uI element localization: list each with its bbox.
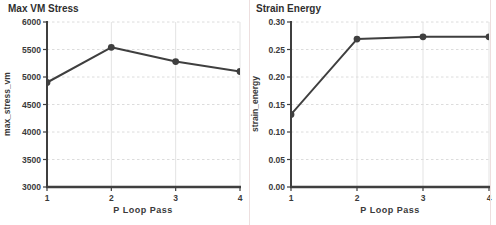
data-point — [108, 44, 115, 51]
x-tick-label: 3 — [421, 193, 426, 203]
y-axis-label: max_stress_vm — [2, 72, 12, 136]
max-vm-stress-plot-canvas: 30003500400045005000550060001234 — [0, 0, 248, 225]
data-series — [44, 44, 244, 86]
data-point — [486, 33, 493, 40]
y-axis-label: strain_energy — [250, 76, 260, 132]
y-tick-label: 5500 — [22, 45, 41, 55]
y-tick-label: 0.20 — [268, 72, 285, 82]
data-point — [288, 111, 295, 118]
data-point — [44, 79, 51, 86]
y-tick-label: 0.25 — [268, 45, 285, 55]
strain-energy-plot-canvas: 0.000.050.100.150.200.250.301234 — [248, 0, 496, 225]
data-point — [172, 58, 179, 65]
x-tick-label: 3 — [173, 193, 178, 203]
charts-strip: 30003500400045005000550060001234 Max VM … — [0, 0, 496, 225]
chart-title: Strain Energy — [256, 3, 321, 14]
chart-strain-energy: 0.000.050.100.150.200.250.301234 Strain … — [248, 0, 496, 225]
chart-title: Max VM Stress — [8, 3, 79, 14]
y-tick-label: 0.05 — [268, 155, 285, 165]
x-tick-label: 1 — [289, 193, 294, 203]
chart-max-vm-stress: 30003500400045005000550060001234 Max VM … — [0, 0, 248, 225]
y-tick-label: 0.00 — [268, 182, 285, 192]
y-tick-label: 3000 — [22, 182, 41, 192]
x-tick-label: 1 — [45, 193, 50, 203]
right-edge-line — [490, 0, 491, 225]
y-tick-label: 0.15 — [268, 100, 285, 110]
y-tick-label: 6000 — [22, 17, 41, 27]
data-series — [288, 33, 493, 117]
x-axis-label: P Loop Pass — [360, 205, 419, 215]
y-tick-label: 4000 — [22, 127, 41, 137]
axes — [43, 21, 241, 191]
x-tick-label: 2 — [355, 193, 360, 203]
y-tick-label: 3500 — [22, 155, 41, 165]
x-tick-label: 2 — [109, 193, 114, 203]
grid-lines — [47, 22, 240, 187]
panel-divider — [249, 0, 250, 225]
y-tick-label: 4500 — [22, 100, 41, 110]
y-tick-label: 5000 — [22, 72, 41, 82]
data-point — [237, 68, 244, 75]
data-point — [354, 36, 361, 43]
x-axis-label: P Loop Pass — [113, 205, 172, 215]
x-tick-label: 4 — [238, 193, 243, 203]
series-line — [291, 37, 489, 115]
y-tick-label: 0.30 — [268, 17, 285, 27]
data-point — [420, 33, 427, 40]
y-tick-label: 0.10 — [268, 127, 285, 137]
grid-lines — [291, 22, 489, 187]
axes — [287, 21, 490, 191]
